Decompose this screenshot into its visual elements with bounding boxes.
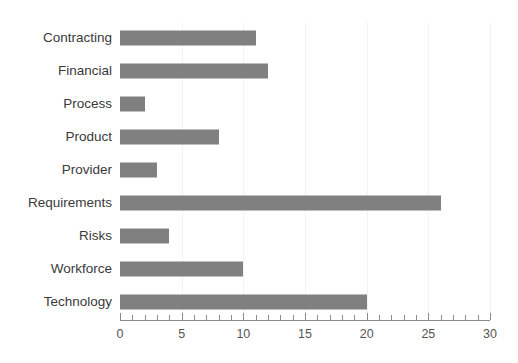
bar bbox=[120, 195, 441, 210]
category-label: Financial bbox=[0, 64, 112, 78]
bar bbox=[120, 130, 219, 145]
bar bbox=[120, 294, 367, 309]
x-axis-minor-tick bbox=[441, 315, 442, 320]
x-axis-minor-tick bbox=[478, 315, 479, 320]
x-axis-major-tick bbox=[120, 313, 121, 320]
x-axis-minor-tick bbox=[354, 315, 355, 320]
x-axis-tick-label: 25 bbox=[421, 328, 435, 341]
bar bbox=[120, 261, 243, 276]
x-axis-major-tick bbox=[243, 313, 244, 320]
bar-row bbox=[120, 88, 490, 121]
x-axis-tick-label: 20 bbox=[360, 328, 374, 341]
x-axis-major-tick bbox=[428, 313, 429, 320]
x-axis-tick-label: 15 bbox=[298, 328, 312, 341]
bar bbox=[120, 162, 157, 177]
x-axis-minor-tick bbox=[404, 315, 405, 320]
x-axis-minor-tick bbox=[194, 315, 195, 320]
category-label: Risks bbox=[0, 229, 112, 243]
plot-area bbox=[120, 22, 490, 318]
gridline bbox=[490, 22, 491, 318]
category-label: Product bbox=[0, 130, 112, 144]
bar bbox=[120, 228, 169, 243]
x-axis-minor-tick bbox=[132, 315, 133, 320]
bar-row bbox=[120, 252, 490, 285]
x-axis-tick-label: 30 bbox=[483, 328, 497, 341]
bar-row bbox=[120, 186, 490, 219]
x-axis-major-tick bbox=[367, 313, 368, 320]
x-axis-minor-tick bbox=[256, 315, 257, 320]
x-axis-minor-tick bbox=[280, 315, 281, 320]
x-axis-line bbox=[120, 320, 490, 321]
category-axis-labels: ContractingFinancialProcessProductProvid… bbox=[0, 22, 112, 318]
bar-row bbox=[120, 55, 490, 88]
x-axis-minor-tick bbox=[465, 315, 466, 320]
bar-row bbox=[120, 121, 490, 154]
x-axis-minor-tick bbox=[157, 315, 158, 320]
x-axis-major-tick bbox=[305, 313, 306, 320]
x-axis-minor-tick bbox=[231, 315, 232, 320]
bar bbox=[120, 64, 268, 79]
bar bbox=[120, 97, 145, 112]
x-axis-minor-tick bbox=[219, 315, 220, 320]
x-axis-minor-tick bbox=[293, 315, 294, 320]
category-label: Technology bbox=[0, 295, 112, 309]
x-axis-tick-label: 5 bbox=[178, 328, 185, 341]
bar-row bbox=[120, 154, 490, 187]
x-axis-major-tick bbox=[182, 313, 183, 320]
category-label: Process bbox=[0, 97, 112, 111]
x-axis-minor-tick bbox=[453, 315, 454, 320]
x-axis-minor-tick bbox=[206, 315, 207, 320]
x-axis-tick-label: 0 bbox=[117, 328, 124, 341]
x-axis-tick-label: 10 bbox=[236, 328, 250, 341]
x-axis-minor-tick bbox=[416, 315, 417, 320]
category-label: Provider bbox=[0, 163, 112, 177]
bar-row bbox=[120, 22, 490, 55]
x-axis-minor-tick bbox=[317, 315, 318, 320]
x-axis-minor-tick bbox=[391, 315, 392, 320]
x-axis-end-cap bbox=[490, 313, 491, 320]
x-axis-minor-tick bbox=[169, 315, 170, 320]
bar-row bbox=[120, 219, 490, 252]
x-axis-minor-tick bbox=[145, 315, 146, 320]
bar-chart: ContractingFinancialProcessProductProvid… bbox=[0, 0, 518, 363]
x-axis-minor-tick bbox=[379, 315, 380, 320]
x-axis-minor-tick bbox=[330, 315, 331, 320]
category-label: Workforce bbox=[0, 262, 112, 276]
category-label: Contracting bbox=[0, 31, 112, 45]
bar-rows bbox=[120, 22, 490, 318]
category-label: Requirements bbox=[0, 196, 112, 210]
bar bbox=[120, 31, 256, 46]
x-axis-minor-tick bbox=[268, 315, 269, 320]
x-axis-minor-tick bbox=[342, 315, 343, 320]
